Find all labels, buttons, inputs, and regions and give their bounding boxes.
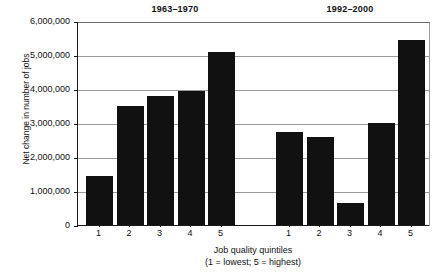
x-axis-tickmark — [319, 224, 320, 227]
y-axis-tick-label: 2,000,000 — [12, 152, 70, 162]
x-axis-title: Job quality quintiles (1 = lowest; 5 = h… — [77, 245, 429, 268]
x-axis-tickmark — [289, 224, 290, 227]
x-axis-title-line2: (1 = lowest; 5 = highest) — [77, 257, 429, 269]
y-axis-tickmark — [74, 90, 78, 91]
bar — [178, 91, 205, 225]
x-axis-tickmark — [160, 224, 161, 227]
bar — [117, 106, 144, 225]
x-axis-tick-label: 3 — [340, 228, 360, 238]
x-axis-tickmark — [190, 224, 191, 227]
bar — [368, 123, 395, 225]
x-axis-title-line1: Job quality quintiles — [77, 245, 429, 257]
x-axis-tick-labels: 1234512345 — [77, 228, 429, 242]
x-axis-tick-label: 2 — [309, 228, 329, 238]
panel-title-1992-2000: 1992–2000 — [270, 4, 430, 14]
y-axis-tick-label: 6,000,000 — [12, 16, 70, 26]
y-axis-tickmark — [74, 158, 78, 159]
bar — [86, 176, 113, 225]
x-axis-tick-label: 3 — [150, 228, 170, 238]
gridline — [78, 90, 430, 91]
y-axis-tickmark — [74, 56, 78, 57]
x-axis-tick-label: 4 — [370, 228, 390, 238]
x-axis-tick-label: 4 — [180, 228, 200, 238]
x-axis-tick-label: 1 — [279, 228, 299, 238]
bar — [147, 96, 174, 225]
bar — [208, 52, 235, 225]
bar — [276, 132, 303, 226]
y-axis-tick-label: 5,000,000 — [12, 50, 70, 60]
x-axis-tick-label: 1 — [89, 228, 109, 238]
x-axis-tickmark — [350, 224, 351, 227]
y-axis-tickmark — [74, 22, 78, 23]
x-axis-tickmark — [99, 224, 100, 227]
y-axis-tick-label: 0 — [12, 220, 70, 230]
panel-title-1963-1970: 1963–1970 — [95, 4, 255, 14]
bar — [307, 137, 334, 225]
y-axis-tickmark — [74, 124, 78, 125]
x-axis-tickmark — [129, 224, 130, 227]
x-axis-tick-label: 5 — [211, 228, 231, 238]
x-axis-tickmark — [380, 224, 381, 227]
bar-chart-figure: 1963–1970 1992–2000 Net change in number… — [0, 0, 439, 278]
plot-area — [77, 22, 429, 226]
gridline — [78, 56, 430, 57]
x-axis-tick-label: 5 — [401, 228, 421, 238]
bar — [398, 40, 425, 225]
y-axis-tick-labels: 01,000,0002,000,0003,000,0004,000,0005,0… — [8, 0, 70, 278]
bar — [337, 203, 364, 225]
x-axis-tick-label: 2 — [119, 228, 139, 238]
gridline — [78, 22, 430, 23]
x-axis-tickmark — [221, 224, 222, 227]
y-axis-tickmark — [74, 226, 78, 227]
x-axis-tickmark — [411, 224, 412, 227]
y-axis-tick-label: 4,000,000 — [12, 84, 70, 94]
y-axis-tick-label: 3,000,000 — [12, 118, 70, 128]
y-axis-tickmark — [74, 192, 78, 193]
y-axis-tick-label: 1,000,000 — [12, 186, 70, 196]
